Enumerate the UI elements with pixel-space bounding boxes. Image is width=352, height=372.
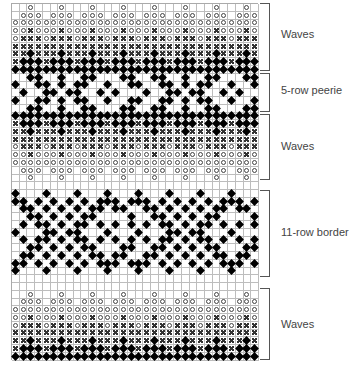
section-bracket (260, 114, 270, 180)
chart-cell (66, 213, 74, 221)
open-circle-stitch-icon (97, 159, 104, 166)
cross-stitch-icon (20, 51, 27, 58)
chart-cell (151, 51, 159, 59)
diamond-stitch-icon (182, 221, 189, 228)
open-circle-stitch-icon (136, 35, 143, 42)
chart-cell (89, 159, 97, 167)
diamond-stitch-icon (74, 89, 81, 96)
open-circle-stitch-icon (151, 306, 158, 313)
chart-cell (112, 113, 120, 121)
chart-cell (236, 113, 244, 121)
chart-cell (128, 58, 136, 66)
diamond-stitch-icon (182, 353, 189, 360)
diamond-stitch-icon (205, 74, 212, 81)
chart-cell (159, 120, 167, 128)
chart-cell (136, 167, 144, 175)
chart-cell (81, 213, 89, 221)
chart-cell (143, 144, 151, 152)
diamond-stitch-icon (12, 97, 19, 104)
chart-cell (12, 345, 20, 353)
diamond-stitch-icon (97, 345, 104, 352)
chart-cell (228, 20, 236, 28)
chart-cell (51, 198, 59, 206)
open-circle-stitch-icon (244, 4, 251, 11)
cross-stitch-icon (27, 43, 34, 50)
diamond-stitch-icon (251, 105, 258, 112)
cross-stitch-icon (143, 322, 150, 329)
chart-cell (190, 229, 198, 237)
diamond-stitch-icon (182, 128, 189, 135)
diamond-stitch-icon (205, 113, 212, 120)
chart-cell (27, 213, 35, 221)
chart-cell (20, 322, 28, 330)
chart-cell (20, 314, 28, 322)
chart-cell (236, 82, 244, 90)
chart-cell (244, 151, 252, 159)
chart-cell (20, 275, 28, 283)
chart-cell (220, 35, 228, 43)
section-bracket (260, 288, 270, 360)
chart-cell (197, 89, 205, 97)
chart-cell (51, 221, 59, 229)
diamond-stitch-icon (20, 221, 27, 228)
cross-stitch-icon (35, 128, 42, 135)
chart-cell (136, 221, 144, 229)
open-circle-stitch-icon (213, 291, 220, 298)
open-circle-stitch-icon (105, 35, 112, 42)
cross-stitch-icon (236, 51, 243, 58)
cross-stitch-icon (89, 144, 96, 151)
diamond-stitch-icon (35, 82, 42, 89)
open-circle-stitch-icon (159, 299, 166, 306)
chart-cell (51, 244, 59, 252)
chart-cell (197, 144, 205, 152)
cross-stitch-icon (74, 58, 81, 65)
diamond-stitch-icon (35, 58, 42, 65)
chart-cell (89, 237, 97, 245)
cross-stitch-icon (197, 51, 204, 58)
diamond-stitch-icon (159, 113, 166, 120)
chart-cell (251, 144, 259, 152)
chart-cell (74, 291, 82, 299)
cross-stitch-icon (120, 136, 127, 143)
chart-cell (12, 12, 20, 20)
chart-cell (51, 51, 59, 59)
chart-cell (58, 260, 66, 268)
chart-cell (236, 330, 244, 338)
diamond-stitch-icon (35, 237, 42, 244)
chart-cell (20, 330, 28, 338)
diamond-stitch-icon (166, 268, 173, 275)
chart-cell (190, 322, 198, 330)
cross-stitch-icon (228, 120, 235, 127)
chart-cell (244, 51, 252, 59)
chart-cell (89, 198, 97, 206)
diamond-stitch-icon (174, 198, 181, 205)
chart-cell (58, 151, 66, 159)
chart-cell (143, 322, 151, 330)
chart-cell (20, 175, 28, 183)
open-circle-stitch-icon (190, 12, 197, 19)
chart-cell (136, 345, 144, 353)
chart-cell (236, 12, 244, 20)
open-circle-stitch-icon (120, 4, 127, 11)
chart-row (12, 337, 258, 345)
chart-cell (120, 27, 128, 35)
cross-stitch-icon (35, 144, 42, 151)
cross-stitch-icon (220, 337, 227, 344)
diamond-stitch-icon (136, 229, 143, 236)
cross-stitch-icon (51, 144, 58, 151)
chart-cell (51, 182, 59, 190)
chart-cell (74, 221, 82, 229)
cross-stitch-icon (244, 43, 251, 50)
chart-cell (43, 27, 51, 35)
open-circle-stitch-icon (128, 306, 135, 313)
chart-cell (220, 252, 228, 260)
chart-cell (143, 237, 151, 245)
cross-stitch-icon (236, 128, 243, 135)
chart-cell (89, 213, 97, 221)
chart-cell (120, 167, 128, 175)
diamond-stitch-icon (43, 268, 50, 275)
open-circle-stitch-icon (35, 27, 42, 34)
chart-cell (197, 151, 205, 159)
chart-cell (74, 89, 82, 97)
chart-cell (58, 306, 66, 314)
